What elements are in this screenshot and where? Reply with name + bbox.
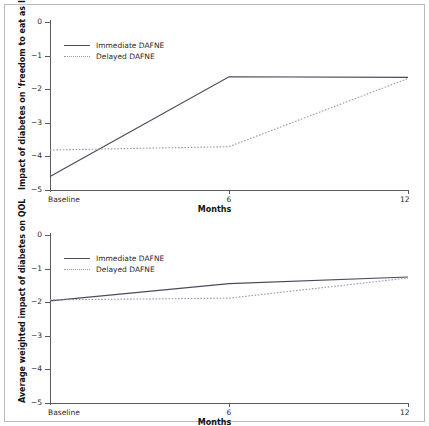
x-axis-title-bottom: Months [0,418,429,426]
figure-container: Impact of diabetes on 'freedom to eat as… [0,0,429,426]
series-line-delayed [50,278,408,300]
legend-label-delayed: Delayed DAFNE [96,265,155,274]
legend-label-delayed: Delayed DAFNE [96,52,155,61]
legend-item-delayed: Delayed DAFNE [64,51,164,62]
legend-top: Immediate DAFNE Delayed DAFNE [64,40,164,62]
legend-item-delayed: Delayed DAFNE [64,264,164,275]
legend-label-immediate: Immediate DAFNE [96,254,164,263]
series-line-immediate [50,277,408,301]
legend-bottom: Immediate DAFNE Delayed DAFNE [64,253,164,275]
series-line-immediate [50,77,408,177]
legend-item-immediate: Immediate DAFNE [64,253,164,264]
legend-line-dotted-icon [64,53,90,60]
chart-panel-top: Impact of diabetes on 'freedom to eat as… [0,0,429,213]
series-svg-top [0,0,429,213]
legend-label-immediate: Immediate DAFNE [96,41,164,50]
legend-line-solid-icon [64,255,90,262]
series-line-delayed [50,78,408,150]
legend-line-dotted-icon [64,266,90,273]
legend-item-immediate: Immediate DAFNE [64,40,164,51]
legend-line-solid-icon [64,42,90,49]
chart-panel-bottom: Average weighted impact of diabetes on Q… [0,213,429,426]
series-svg-bottom [0,213,429,426]
